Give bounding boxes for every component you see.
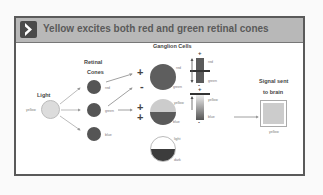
bar-yellow-blue: [196, 95, 204, 120]
bar-minus: -: [198, 119, 200, 125]
double-arrow-icon: [16, 18, 307, 178]
output-swatch: [263, 103, 284, 124]
output-heading-2: to brain: [263, 89, 283, 95]
bar-plus: +: [198, 86, 202, 92]
bar-label: blue: [208, 115, 215, 119]
bar-label: yellow: [208, 98, 218, 102]
bar-label: red: [208, 60, 213, 64]
bar-label: green: [208, 79, 217, 83]
output-swatch-frame: [260, 100, 287, 127]
diagram-frame: Yellow excites both red and green retina…: [14, 16, 305, 176]
output-swatch-label: yellow: [269, 130, 279, 134]
output-heading-1: Signal sent: [259, 78, 288, 84]
